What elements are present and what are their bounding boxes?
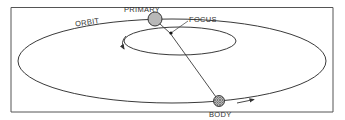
primary-label: PRIMARY (124, 5, 160, 14)
diagram-frame-border (11, 8, 333, 113)
outer-orbit-arrow-icon (237, 100, 254, 104)
outer-orbit-ellipse (18, 19, 326, 103)
primary-focus-line (160, 24, 170, 33)
body-label: BODY (209, 110, 231, 119)
orbit-label: ORBIT (75, 16, 101, 28)
orbiting-body (214, 96, 225, 107)
focus-body-line (170, 33, 216, 97)
focus-point (169, 31, 172, 34)
orbit-diagram: ORBIT PRIMARY FOCUS BODY (0, 0, 345, 120)
primary-body (148, 12, 162, 26)
inner-orbit-ellipse (124, 27, 236, 55)
focus-label: FOCUS (189, 15, 217, 24)
